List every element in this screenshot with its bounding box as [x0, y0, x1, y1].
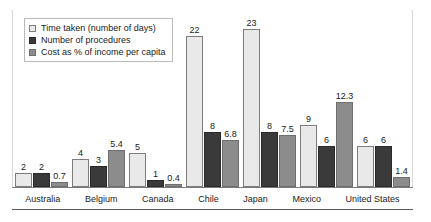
bar-value-label: 1 — [153, 169, 158, 179]
bar-group: 2286.8 — [186, 10, 239, 187]
bar — [186, 36, 203, 187]
bar — [393, 177, 410, 187]
bar-value-label: 8 — [267, 121, 272, 131]
bar-value-label: 22 — [189, 25, 199, 35]
bar — [300, 125, 317, 187]
x-axis-baseline — [12, 187, 413, 188]
bar-group: 9612.3 — [300, 10, 353, 187]
bar-column: 8 — [204, 10, 221, 187]
bar-column: 2 — [15, 10, 32, 187]
bar-group: 2387.5 — [243, 10, 296, 187]
bar — [375, 146, 392, 187]
bar-chart: Time taken (number of days) Number of pr… — [0, 0, 431, 222]
bar — [222, 140, 239, 187]
bar — [90, 166, 107, 187]
bar-value-label: 6 — [381, 135, 386, 145]
bar-column: 9 — [300, 10, 317, 187]
bar — [72, 159, 89, 187]
bar — [336, 102, 353, 187]
category-axis: AustraliaBelgiumCanadaChileJapanMexicoUn… — [13, 189, 412, 208]
bar-group: 661.4 — [357, 10, 410, 187]
bar-value-label: 4 — [78, 148, 83, 158]
bar — [357, 146, 374, 187]
bar-value-label: 23 — [246, 18, 256, 28]
bar-column: 0.4 — [165, 10, 182, 187]
bar — [147, 180, 164, 187]
category-label: Japan — [243, 194, 268, 204]
bar-value-label: 0.7 — [53, 171, 66, 181]
bar — [261, 132, 278, 187]
bar-column: 6 — [318, 10, 335, 187]
bar-column: 1 — [147, 10, 164, 187]
bar-column: 2 — [33, 10, 50, 187]
bar — [165, 184, 182, 187]
bar-group: 220.7 — [15, 10, 68, 187]
bar-column: 6 — [357, 10, 374, 187]
plot-area: 220.7435.4510.42286.82387.59612.3661.4 — [13, 10, 412, 187]
bar-group: 510.4 — [129, 10, 182, 187]
bar — [51, 182, 68, 187]
bar — [204, 132, 221, 187]
bar-column: 5.4 — [108, 10, 125, 187]
bar-value-label: 2 — [21, 162, 26, 172]
category-label: Canada — [142, 194, 174, 204]
bar-column: 12.3 — [336, 10, 353, 187]
bar — [279, 135, 296, 187]
bar-value-label: 5 — [135, 142, 140, 152]
bar — [129, 153, 146, 187]
bar — [33, 173, 50, 187]
bar-column: 4 — [72, 10, 89, 187]
bar-column: 23 — [243, 10, 260, 187]
category-label: United States — [346, 194, 400, 204]
bar-value-label: 6 — [324, 135, 329, 145]
bar-value-label: 8 — [210, 121, 215, 131]
bar-value-label: 1.4 — [395, 166, 408, 176]
bar-column: 5 — [129, 10, 146, 187]
bar-column: 6 — [375, 10, 392, 187]
bar-column: 6.8 — [222, 10, 239, 187]
plot-frame-right-line — [412, 10, 413, 188]
bar — [108, 150, 125, 187]
bar-value-label: 0.4 — [167, 173, 180, 183]
bar-group: 435.4 — [72, 10, 125, 187]
bar-value-label: 6 — [363, 135, 368, 145]
bar-value-label: 2 — [39, 162, 44, 172]
bar-column: 22 — [186, 10, 203, 187]
bar-column: 7.5 — [279, 10, 296, 187]
bar-column: 1.4 — [393, 10, 410, 187]
bar-value-label: 5.4 — [110, 139, 123, 149]
category-label: Chile — [198, 194, 219, 204]
bar-value-label: 12.3 — [336, 91, 354, 101]
bar-value-label: 6.8 — [224, 129, 237, 139]
bar-column: 3 — [90, 10, 107, 187]
bar — [243, 29, 260, 187]
bar-value-label: 7.5 — [281, 124, 294, 134]
category-label: Australia — [25, 194, 60, 204]
bar — [318, 146, 335, 187]
bar — [15, 173, 32, 187]
bar-value-label: 3 — [96, 155, 101, 165]
bar-column: 0.7 — [51, 10, 68, 187]
bar-column: 8 — [261, 10, 278, 187]
chart-bottom-rule — [12, 209, 413, 210]
bar-value-label: 9 — [306, 114, 311, 124]
category-label: Mexico — [292, 194, 321, 204]
category-label: Belgium — [85, 194, 118, 204]
